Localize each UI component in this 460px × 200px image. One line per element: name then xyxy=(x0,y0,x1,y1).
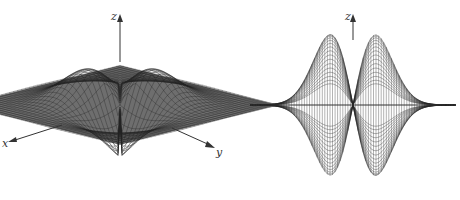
z-axis-arrowhead-right xyxy=(350,14,356,22)
figure: z x y z xyxy=(0,0,460,200)
x-axis-label: x xyxy=(2,137,9,150)
z-axis-label-left: z xyxy=(110,10,117,23)
right-surface-plot: z xyxy=(250,10,456,175)
y-axis-arrowhead xyxy=(205,141,215,148)
z-axis-arrowhead-left xyxy=(117,14,123,22)
x-axis-arrowhead xyxy=(8,137,17,142)
y-axis xyxy=(172,128,212,146)
left-surface-plot: z x y xyxy=(0,10,278,159)
left-mesh-surface xyxy=(0,65,278,155)
y-axis-label: y xyxy=(215,146,223,159)
z-axis-label-right: z xyxy=(344,10,351,23)
x-axis xyxy=(12,125,62,141)
